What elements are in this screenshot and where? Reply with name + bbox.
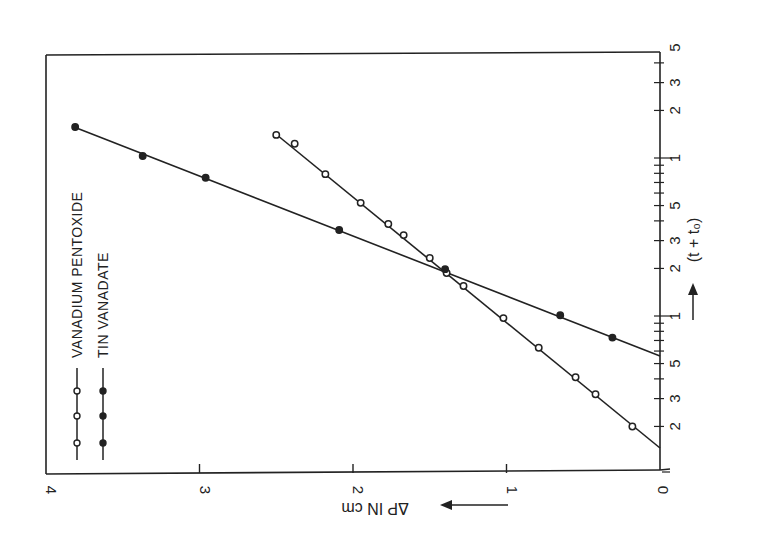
open-circle-marker <box>592 391 598 397</box>
dp-tick-label: 2 <box>350 486 367 494</box>
time-axis-label: (t + t₀) <box>685 218 702 262</box>
time-tick-label: 1 <box>666 312 683 320</box>
chart: 0123423512351235 VANADIUM PENTOXIDETIN V… <box>0 0 766 554</box>
figure-caption: Fig. 4 - <box>690 395 750 554</box>
open-circle-marker <box>273 132 279 138</box>
time-tick-label: 3 <box>666 236 683 244</box>
open-circle-marker <box>427 255 433 261</box>
legend-marker <box>100 413 106 419</box>
filled-circle-marker <box>336 227 342 233</box>
open-circle-marker <box>572 374 578 380</box>
open-circle-marker <box>357 200 363 206</box>
dp-axis-label: ΔP IN cm <box>341 500 408 517</box>
dp-tick-label: 4 <box>43 486 60 494</box>
series-lines <box>74 127 660 448</box>
open-circle-marker <box>536 345 542 351</box>
legend-label: VANADIUM PENTOXIDE <box>69 192 85 358</box>
filled-circle-marker <box>557 312 563 318</box>
open-circle-marker <box>500 315 506 321</box>
filled-circle-marker <box>609 334 615 340</box>
filled-circle-marker <box>140 153 146 159</box>
legend-marker <box>100 440 106 446</box>
plot-frame <box>46 52 660 474</box>
time-tick-label: 5 <box>666 201 683 209</box>
legend-marker <box>74 440 80 446</box>
dp-axis-arrow-head <box>440 500 452 510</box>
dp-tick-label: 1 <box>504 486 521 494</box>
filled-circle-marker <box>442 266 448 272</box>
time-axis-arrow-head <box>688 283 698 295</box>
legend-marker <box>74 413 80 419</box>
filled-circle-marker <box>72 124 78 130</box>
time-tick-label: 3 <box>666 394 683 402</box>
series-line <box>74 127 660 356</box>
open-circle-marker <box>629 423 635 429</box>
series-points <box>72 124 636 430</box>
legend: VANADIUM PENTOXIDETIN VANADATE <box>69 192 111 460</box>
time-tick-label: 1 <box>666 154 683 162</box>
time-tick-label: 2 <box>666 422 683 430</box>
time-tick-label: 5 <box>666 359 683 367</box>
dp-tick-label: 0 <box>655 486 672 494</box>
open-circle-marker <box>460 283 466 289</box>
plot-border-top <box>46 52 660 55</box>
filled-circle-marker <box>202 175 208 181</box>
open-circle-marker <box>322 171 328 177</box>
legend-label: TIN VANADATE <box>95 252 111 358</box>
time-tick-label: 2 <box>666 106 683 114</box>
time-tick-label: 2 <box>666 264 683 272</box>
dp-tick-label: 3 <box>197 486 214 494</box>
legend-marker <box>100 388 106 394</box>
open-circle-marker <box>291 141 297 147</box>
open-circle-marker <box>385 221 391 227</box>
open-circle-marker <box>400 232 406 238</box>
time-tick-label: 3 <box>666 78 683 86</box>
time-tick-label: 5 <box>666 43 683 51</box>
axis-ticks: 0123423512351235 <box>43 43 683 494</box>
legend-marker <box>74 388 80 394</box>
series-line <box>277 135 660 448</box>
dp-zero-tick <box>660 469 670 470</box>
